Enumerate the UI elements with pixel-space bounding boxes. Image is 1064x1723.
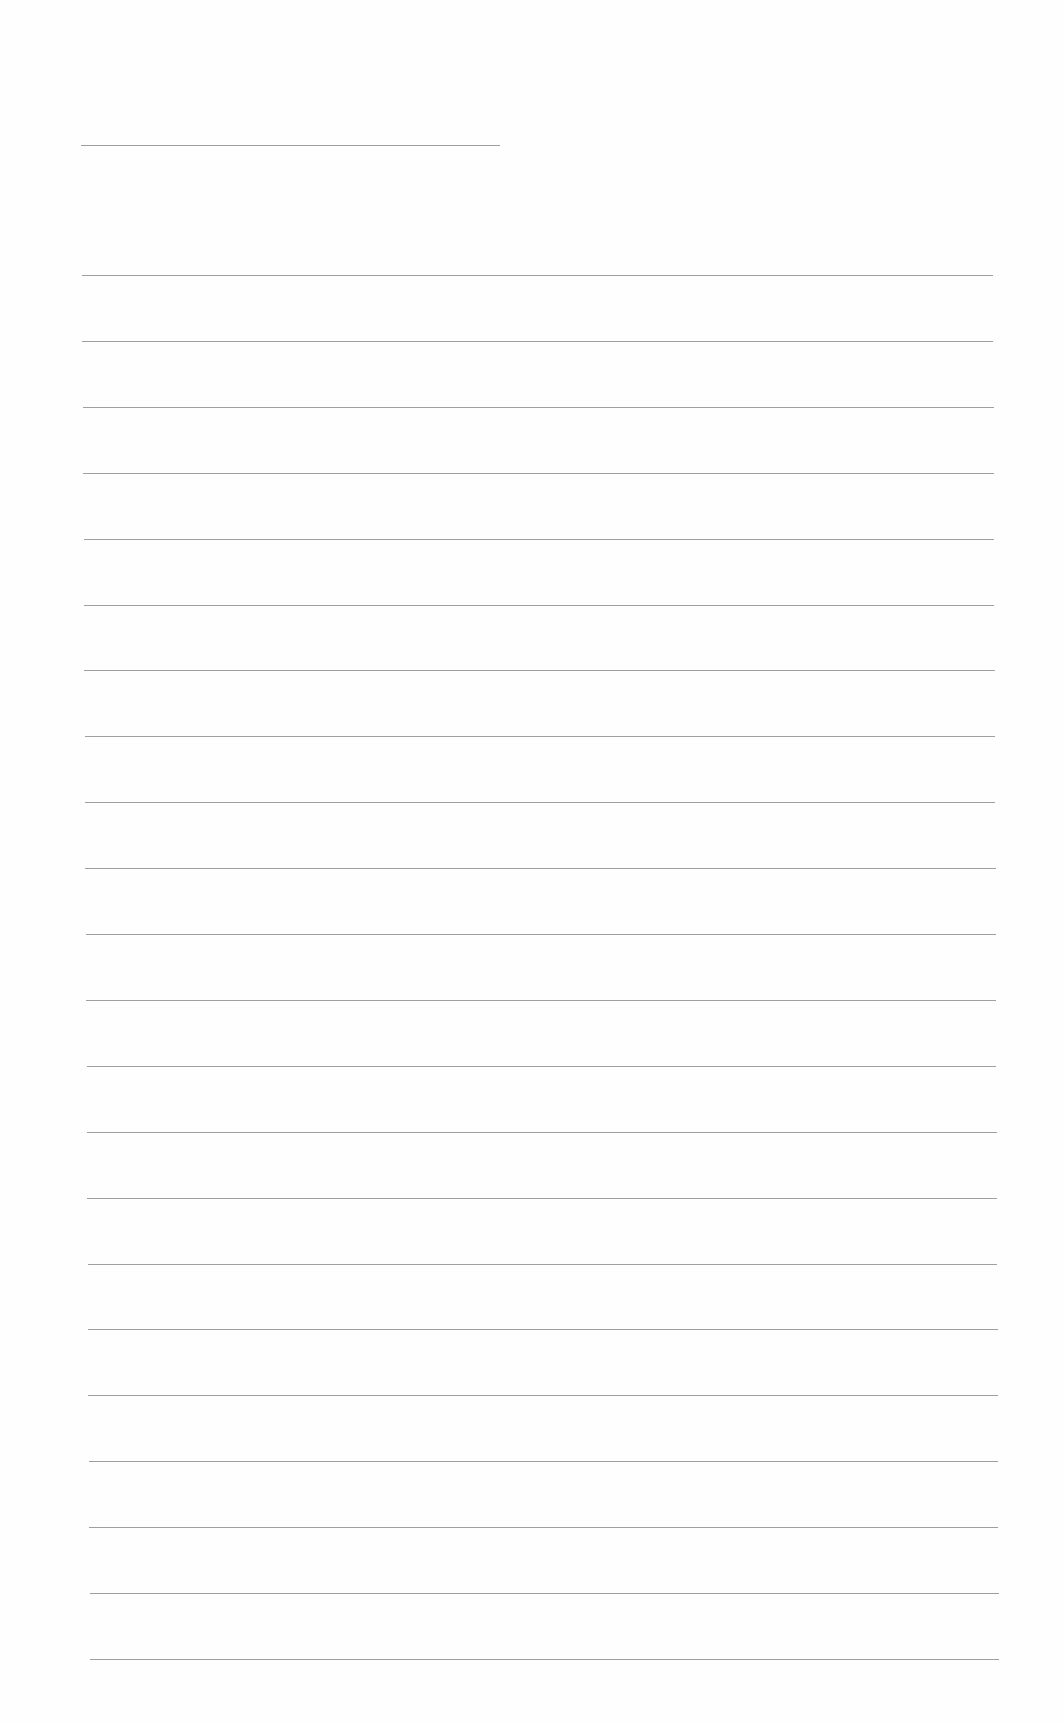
ruled-line [85,868,995,869]
ruled-line [90,1659,999,1660]
ruled-line [85,802,995,803]
ruled-line [88,1264,998,1265]
ruled-line [84,605,995,606]
lined-paper-page [0,0,1064,1723]
ruled-line [82,275,993,276]
ruled-line [84,670,994,671]
ruled-line [87,1066,997,1067]
ruled-line [88,1329,997,1330]
ruled-line [84,539,995,540]
ruled-line [82,341,993,342]
ruled-line [88,1395,997,1396]
ruled-line [89,1527,998,1528]
ruled-line [87,1198,997,1199]
header-line [81,145,500,146]
ruled-line [83,407,994,408]
ruled-line [86,934,996,935]
ruled-line [87,1132,997,1133]
ruled-line [89,1461,998,1462]
ruled-line [90,1593,999,1594]
ruled-line [86,1000,996,1001]
ruled-line [85,736,995,737]
ruled-line [83,473,994,474]
